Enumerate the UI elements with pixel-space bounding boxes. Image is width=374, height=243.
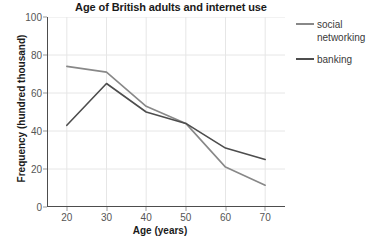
- x-axis-label: Age (years): [40, 225, 280, 236]
- y-tick-mark: [43, 207, 47, 208]
- legend-swatch-icon: [296, 58, 314, 60]
- x-tick-label: 40: [141, 212, 152, 223]
- y-tick-mark: [43, 131, 47, 132]
- y-tick-label: 0: [36, 202, 42, 213]
- x-tick-label: 60: [220, 212, 231, 223]
- chart-title: Age of British adults and internet use: [55, 1, 287, 13]
- x-tick-mark: [106, 207, 107, 211]
- plot-svg: [47, 17, 285, 207]
- x-tick-mark: [185, 207, 186, 211]
- x-tick-mark: [225, 207, 226, 211]
- series-line-social-networking: [67, 66, 265, 185]
- x-tick-label: 50: [180, 212, 191, 223]
- legend-label: banking: [317, 53, 352, 66]
- y-tick-mark: [43, 169, 47, 170]
- x-tick-mark: [146, 207, 147, 211]
- x-tick-mark: [265, 207, 266, 211]
- plot-area: 020406080100 203040506070: [47, 17, 285, 207]
- legend-swatch-icon: [296, 23, 314, 25]
- y-tick-label: 60: [31, 88, 42, 99]
- legend-label: social networking: [317, 18, 374, 44]
- series-line-banking: [67, 84, 265, 160]
- y-tick-label: 100: [25, 12, 42, 23]
- y-axis-label: Frequency (hundred thousand): [16, 24, 27, 194]
- y-tick-label: 80: [31, 50, 42, 61]
- x-tick-label: 70: [260, 212, 271, 223]
- y-tick-label: 20: [31, 164, 42, 175]
- legend-item-social-networking: social networking: [296, 18, 374, 44]
- line-chart: Age of British adults and internet use F…: [0, 0, 374, 243]
- y-tick-mark: [43, 55, 47, 56]
- chart-legend: social networking banking: [296, 18, 374, 75]
- x-tick-mark: [66, 207, 67, 211]
- legend-item-banking: banking: [296, 53, 374, 66]
- y-tick-label: 40: [31, 126, 42, 137]
- y-tick-mark: [43, 93, 47, 94]
- x-tick-label: 30: [101, 212, 112, 223]
- y-tick-mark: [43, 17, 47, 18]
- x-tick-label: 20: [61, 212, 72, 223]
